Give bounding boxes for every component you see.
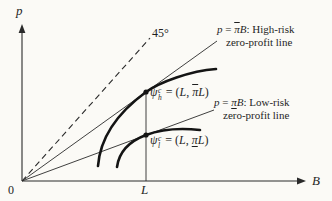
low-risk-line2: zero-profit line <box>214 109 290 122</box>
high-risk-tangency-point <box>143 89 148 94</box>
low-risk-equation: p = πB: Low-risk <box>214 96 290 109</box>
low-risk-point-label: ψcl = (L, πL) <box>150 133 208 149</box>
y-axis-label: p <box>16 4 23 18</box>
high-risk-line-label: p = πB: High-risk zero-profit line <box>217 23 294 48</box>
high-risk-point-label: ψch = (L, πL) <box>150 85 209 101</box>
var-L: L <box>179 133 186 147</box>
psi-supsub: cl <box>158 136 161 149</box>
low-risk-text: : Low-risk <box>243 96 289 108</box>
equals-open-paren: = ( <box>163 85 180 99</box>
high-risk-equation: p = πB: High-risk <box>217 23 294 36</box>
psi-supsub: ch <box>158 88 162 101</box>
equals-sign: = <box>220 96 232 108</box>
equals-open-paren: = ( <box>162 133 179 147</box>
y-axis-arrowhead-icon <box>19 24 26 33</box>
close-paren: ) <box>205 85 209 99</box>
low-risk-line-label: p = πB: Low-risk zero-profit line <box>214 96 290 121</box>
zero-profit-lines-diagram: p B 0 L 45° p = πB: High-risk zero-profi… <box>0 0 332 201</box>
45-degree-line <box>22 38 150 181</box>
var-L: L <box>198 85 205 99</box>
high-risk-line2: zero-profit line <box>217 36 294 49</box>
x-axis-arrowhead-icon <box>297 178 306 185</box>
psi-subscript: h <box>158 95 162 102</box>
close-paren: ) <box>204 133 208 147</box>
psi-subscript: l <box>158 143 161 150</box>
angle-label: 45° <box>152 26 169 40</box>
x-axis-label: B <box>312 174 320 188</box>
psi-symbol: ψ <box>150 133 157 147</box>
origin-label: 0 <box>8 183 14 197</box>
l-tick-label: L <box>141 183 148 197</box>
equals-sign: = <box>223 23 235 35</box>
high-risk-text: : High-risk <box>246 23 294 35</box>
low-risk-tangency-point <box>143 132 148 137</box>
psi-symbol: ψ <box>150 85 157 99</box>
